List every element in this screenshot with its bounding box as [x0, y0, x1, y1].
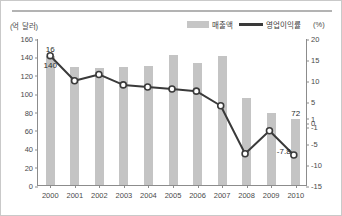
- x-axis-tick-label: 2005: [165, 191, 182, 200]
- legend-bar-swatch-icon: [187, 21, 209, 28]
- legend-item-operating-margin: 영업이익률: [239, 19, 301, 30]
- data-label: 16: [46, 44, 55, 53]
- right-axis-tick-label: -15: [306, 182, 322, 191]
- x-axis-tick-label: 2002: [91, 191, 108, 200]
- line-marker: [218, 103, 224, 109]
- data-label: 72: [291, 108, 300, 117]
- right-axis-tick-label: 15: [306, 56, 319, 65]
- line-marker: [291, 152, 297, 158]
- x-axis-tick-mark: [75, 185, 76, 188]
- left-axis-tick-label: 0: [29, 182, 38, 191]
- x-axis-tick-label: 2003: [116, 191, 133, 200]
- x-axis-tick-label: 2000: [42, 191, 59, 200]
- x-axis-tick-mark: [148, 185, 149, 188]
- x-axis-tick-mark: [124, 185, 125, 188]
- right-axis-tick-label: -1: [306, 123, 318, 132]
- legend-item-revenue: 매출액: [187, 19, 233, 30]
- plot-area: 020406080100120140160 201510510-1-5-10-1…: [37, 39, 307, 186]
- top-divider: [12, 10, 332, 12]
- line-marker: [72, 78, 78, 84]
- x-axis-tick-label: 2007: [214, 191, 231, 200]
- x-axis-tick-label: 2001: [66, 191, 83, 200]
- left-axis-tick-label: 80: [25, 108, 38, 117]
- x-axis-tick-mark: [271, 185, 272, 188]
- legend-line-swatch-icon: [239, 23, 263, 26]
- x-axis-tick-label: 2006: [189, 191, 206, 200]
- right-axis-tick-label: 10: [306, 77, 319, 86]
- x-axis-tick-label: 2004: [140, 191, 157, 200]
- line-marker: [193, 88, 199, 94]
- x-axis-tick-mark: [173, 185, 174, 188]
- x-axis-tick-label: 2008: [238, 191, 255, 200]
- left-axis-tick-label: 60: [25, 126, 38, 135]
- line-marker: [242, 151, 248, 157]
- line-marker: [145, 84, 151, 90]
- x-axis-tick-mark: [247, 185, 248, 188]
- left-axis-tick-label: 100: [20, 90, 38, 99]
- line-marker: [169, 86, 175, 92]
- chart-legend: 매출액 영업이익률: [187, 19, 301, 30]
- right-axis-tick-label: 20: [306, 35, 319, 44]
- legend-label-revenue: 매출액: [212, 19, 233, 30]
- left-axis-tick-label: 120: [20, 71, 38, 80]
- x-axis-tick-mark: [99, 185, 100, 188]
- data-label: -7.8: [277, 146, 291, 155]
- x-axis-tick-mark: [50, 185, 51, 188]
- left-axis-tick-label: 20: [25, 163, 38, 172]
- left-axis-unit-label: (억 달러): [10, 20, 38, 31]
- line-marker: [266, 128, 272, 134]
- right-axis-unit-label: (%): [313, 20, 325, 29]
- left-axis-tick-label: 40: [25, 145, 38, 154]
- x-axis-tick-label: 2010: [287, 191, 304, 200]
- line-marker: [96, 71, 102, 77]
- x-axis-tick-mark: [296, 185, 297, 188]
- line-marker: [47, 53, 53, 59]
- line-marker: [120, 82, 126, 88]
- x-axis-tick-label: 2009: [263, 191, 280, 200]
- chart-figure: (억 달러) (%) 매출액 영업이익률 0204060801001201401…: [0, 0, 342, 216]
- line-series-operating-margin: [38, 39, 306, 185]
- legend-label-operating-margin: 영업이익률: [266, 19, 301, 30]
- data-label: 140: [44, 61, 57, 70]
- left-axis-tick-label: 140: [20, 53, 38, 62]
- x-axis-tick-mark: [222, 185, 223, 188]
- x-axis-tick-mark: [198, 185, 199, 188]
- right-axis-tick-label: -5: [306, 140, 318, 149]
- line-path: [50, 56, 294, 155]
- right-axis-tick-label: 5: [306, 98, 315, 107]
- right-axis-tick-label: -10: [306, 161, 322, 170]
- left-axis-tick-label: 160: [20, 35, 38, 44]
